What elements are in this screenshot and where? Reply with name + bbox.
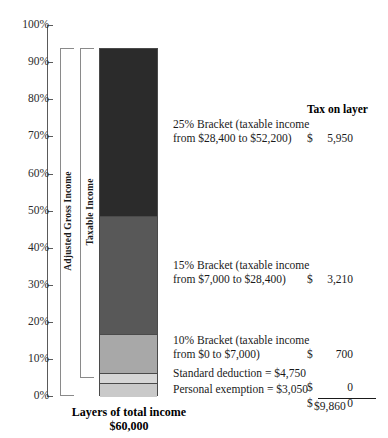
annotation-desc-personal-exemption: Personal exemption = $3,050	[173, 383, 321, 397]
annotation-amount-15-bracket: $3,210	[307, 259, 385, 286]
bar-segment-standard-deduction	[100, 373, 157, 383]
y-tick-label-70: 70%	[5, 130, 49, 142]
y-tick-label-0: 0%	[5, 390, 49, 402]
bracket-label-adjusted-gross-income: Adjusted Gross Income	[63, 151, 73, 291]
annotation-amount-10-bracket: $700	[307, 334, 385, 361]
bracket-label-taxable-income: Taxable Income	[85, 147, 95, 277]
total-separator-rule	[318, 398, 376, 399]
total-tax-amount: $9,860	[314, 400, 346, 414]
y-tick-label-100: 100%	[5, 19, 49, 31]
currency-symbol: $	[307, 273, 317, 287]
annotation-desc-25-bracket: 25% Bracket (taxable income from $28,400…	[173, 118, 321, 145]
bar-segment-10-bracket	[100, 334, 157, 373]
annotation-amount-25-bracket: $5,950	[307, 118, 385, 145]
y-tick-label-40: 40%	[5, 242, 49, 254]
bar-segment-15-bracket	[100, 216, 157, 334]
y-tick-label-50: 50%	[5, 205, 49, 217]
y-tick-label-60: 60%	[5, 168, 49, 180]
y-tick-label-10: 10%	[5, 353, 49, 365]
chart-canvas: 100% 90% 80% 70% 60% 50% 40% 30% 20% 10%…	[0, 0, 388, 438]
y-tick-label-90: 90%	[5, 56, 49, 68]
amount-value: 5,950	[317, 132, 353, 146]
stacked-bar	[99, 48, 158, 396]
annotation-desc-10-bracket: 10% Bracket (taxable income from $0 to $…	[173, 334, 321, 361]
annotation-desc-15-bracket: 15% Bracket (taxable income from $7,000 …	[173, 259, 321, 286]
amount-value: 700	[317, 348, 353, 362]
tax-on-layer-header: Tax on layer	[307, 103, 368, 115]
chart-caption: Layers of total income $60,000	[58, 406, 200, 433]
y-tick-label-20: 20%	[5, 316, 49, 328]
currency-symbol: $	[307, 348, 317, 362]
bar-segment-personal-exemption	[100, 383, 157, 397]
y-tick-label-30: 30%	[5, 279, 49, 291]
annotation-desc-standard-deduction: Standard deduction = $4,750	[173, 367, 321, 381]
currency-symbol: $	[307, 132, 317, 146]
y-tick-label-80: 80%	[5, 93, 49, 105]
amount-value: 3,210	[317, 273, 353, 287]
bar-segment-25-bracket	[100, 49, 157, 216]
